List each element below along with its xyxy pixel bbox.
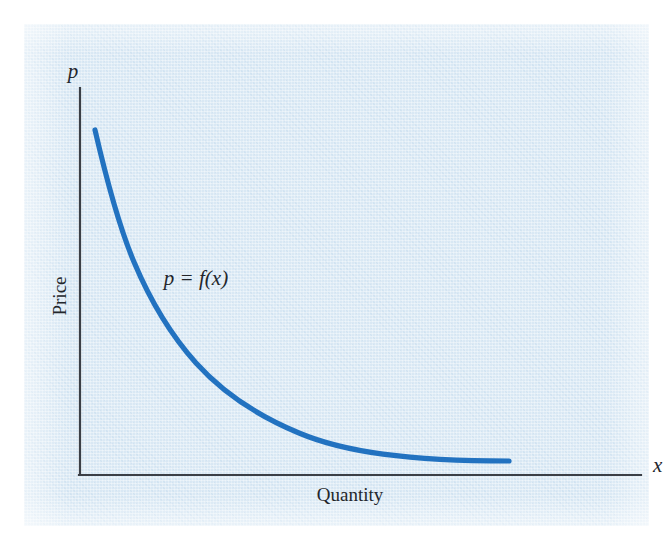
y-axis-variable-label: p [66, 59, 79, 83]
curve-equation-label: p = f(x) [162, 266, 228, 290]
figure-root: p x Price Quantity p = f(x) [0, 0, 671, 555]
x-axis-name-label: Quantity [317, 484, 384, 505]
x-axis-variable-label: x [652, 453, 663, 477]
plot-area: p x Price Quantity p = f(x) [0, 0, 671, 555]
demand-curve [95, 130, 509, 461]
y-axis-name-label: Price [49, 276, 70, 315]
